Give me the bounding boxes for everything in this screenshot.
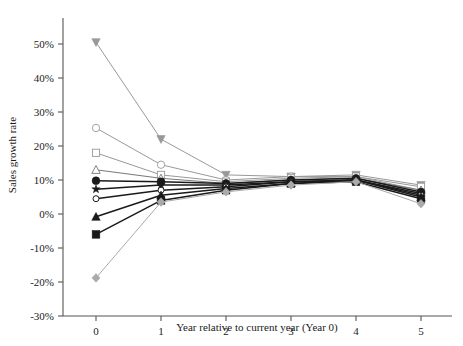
y-axis-tick-label: 30% [34, 106, 54, 118]
sales-growth-rate-chart: -30%-20%-10%0%10%20%30%40%50% 012345 Yea… [0, 0, 463, 346]
y-axis-tick-label: 20% [34, 140, 54, 152]
data-point-square-open [92, 149, 99, 156]
data-point-circle-open [92, 124, 99, 131]
marker-glyph [92, 231, 100, 239]
marker-glyph [157, 161, 164, 168]
x-axis-tick-label: 1 [158, 325, 164, 337]
y-axis-tick-label: -10% [30, 242, 54, 254]
data-point-circle-filled [92, 177, 100, 185]
marker-glyph [93, 196, 99, 202]
x-axis-tick-label: 5 [418, 325, 424, 337]
x-axis-title: Year relative to current year (Year 0) [176, 321, 338, 334]
y-axis-tick-label: 0% [39, 208, 54, 220]
data-point-square-filled [92, 231, 100, 239]
y-axis-tick-label: -20% [30, 276, 54, 288]
x-axis-tick-label: 4 [353, 325, 359, 337]
y-axis-tick-label: 40% [34, 72, 54, 84]
x-axis-tick-label: 0 [93, 325, 99, 337]
y-axis-title: Sales growth rate [6, 117, 18, 193]
data-point-circle-open [157, 161, 164, 168]
y-axis-tick-label: 50% [34, 38, 54, 50]
chart-background [0, 0, 463, 346]
marker-glyph [92, 177, 100, 185]
y-axis-tick-label: 10% [34, 174, 54, 186]
marker-glyph [92, 149, 99, 156]
marker-glyph [92, 124, 99, 131]
data-point-circle-small-open [93, 196, 99, 202]
chart-canvas: -30%-20%-10%0%10%20%30%40%50% 012345 Yea… [0, 0, 463, 346]
y-axis-tick-label: -30% [30, 310, 54, 322]
